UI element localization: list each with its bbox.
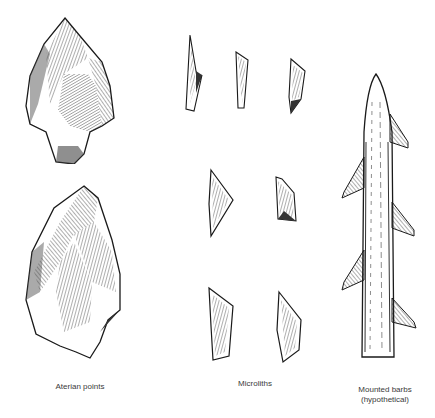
label-hypothetical: (hypothetical) [345, 395, 425, 405]
microlith-4 [207, 168, 235, 238]
mounted-barbs-shaft [334, 72, 435, 362]
aterian-point-top [18, 14, 128, 164]
microlith-2 [234, 50, 252, 110]
microlith-7 [275, 290, 305, 364]
aterian-point-bottom [20, 182, 130, 362]
label-aterian-points: Aterian points [40, 382, 120, 392]
microlith-1 [184, 33, 206, 113]
microlith-5 [274, 175, 300, 223]
label-mounted-barbs: Mounted barbs [345, 385, 425, 395]
microlith-6 [207, 286, 237, 362]
microlith-3 [287, 57, 309, 115]
label-microliths: Microliths [225, 379, 285, 389]
